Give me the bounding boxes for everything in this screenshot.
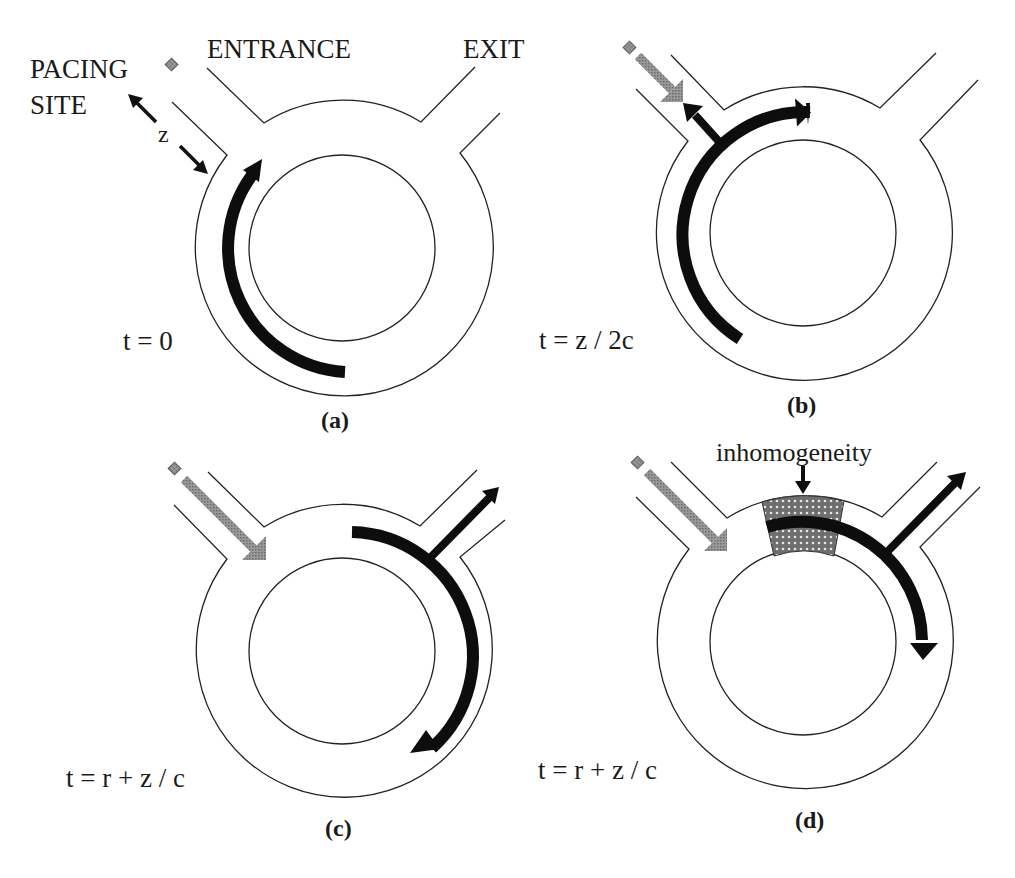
stimulus-arrow-icon <box>647 472 727 551</box>
panel-caption-a: (a) <box>321 408 349 432</box>
pacing-site-icon <box>623 41 636 54</box>
inhomogeneity-pointer-icon <box>795 466 811 494</box>
arrowhead-icon <box>910 643 938 660</box>
entrance-label: ENTRANCE <box>207 36 351 63</box>
wavefront-arc <box>683 97 812 339</box>
stimulus-arrow-icon <box>638 56 683 102</box>
panel-caption-c: (c) <box>325 816 352 840</box>
pacing-site-icon <box>168 462 181 475</box>
exit-label: EXIT <box>463 36 524 63</box>
inhomogeneity-label: inhomogeneity <box>716 440 872 466</box>
panel-caption-b: (b) <box>787 393 816 417</box>
pacing-site-label-line1: PACING <box>30 56 128 83</box>
pacing-site-icon <box>631 456 644 469</box>
time-label-d: t = r + z / c <box>538 757 657 784</box>
circuit-outline <box>172 67 500 396</box>
panel-caption-d: (d) <box>795 808 824 832</box>
wavefront-arc <box>352 487 499 753</box>
pacing-site-icon <box>165 58 178 71</box>
panel-a <box>128 58 500 396</box>
arrowhead-icon <box>795 97 812 126</box>
reentry-circuit-figure: PACING SITE ENTRANCE EXIT z inhomogeneit… <box>0 0 1015 878</box>
panel-b <box>623 41 978 380</box>
pacing-site-label-line2: SITE <box>30 92 87 119</box>
panel-c <box>168 462 505 797</box>
time-label-b: t = z / 2c <box>539 327 634 354</box>
stimulus-arrow-icon <box>184 479 266 560</box>
panel-d <box>631 456 980 788</box>
time-label-c: t = r + z / c <box>66 765 185 792</box>
distance-label: z <box>158 122 169 146</box>
time-label-a: t = 0 <box>123 328 173 355</box>
